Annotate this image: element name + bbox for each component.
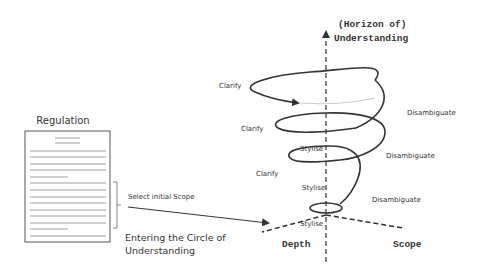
entering-circle-line1: Entering the Circle of <box>125 232 226 243</box>
horizon-label-line2: Understanding <box>334 33 408 44</box>
stylise-label-1: Stylise <box>300 145 323 153</box>
clarify-label-2: Clarify <box>241 125 263 133</box>
stylise-label-3: Stylise <box>300 220 323 228</box>
entering-circle-line2: Understanding <box>125 245 195 256</box>
scope-axis-label: Scope <box>393 239 422 250</box>
scope-bracket <box>113 182 121 228</box>
depth-axis-label: Depth <box>282 239 311 250</box>
disambiguate-label-2: Disambiguate <box>386 152 435 160</box>
select-initial-scope-label: Select initial Scope <box>128 193 195 201</box>
clarify-label-3: Clarify <box>256 170 278 178</box>
stylise-label-2: Stylise <box>302 184 325 192</box>
document-title: Regulation <box>36 115 89 126</box>
entry-arrow <box>128 207 268 223</box>
axes <box>262 32 403 262</box>
horizon-label-line1: (Horizon of) <box>338 19 406 30</box>
hermeneutic-spiral-diagram: Regulation Select initial Scope Enteri <box>0 0 477 268</box>
disambiguate-label-1: Disambiguate <box>407 109 456 117</box>
regulation-document-icon: Regulation <box>25 115 110 242</box>
scope-axis <box>326 215 403 228</box>
disambiguate-label-3: Disambiguate <box>372 196 421 204</box>
clarify-label-1: Clarify <box>219 82 241 90</box>
